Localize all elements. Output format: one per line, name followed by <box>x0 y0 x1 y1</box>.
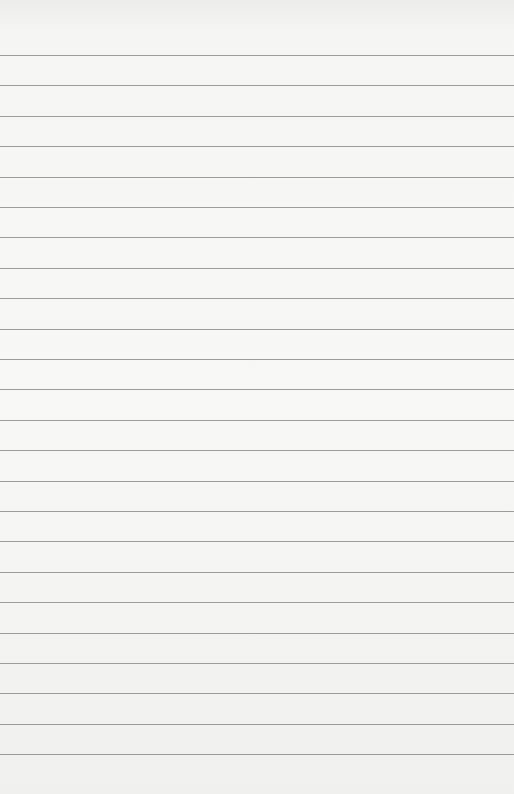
ruled-line <box>0 541 514 542</box>
ruled-line <box>0 389 514 390</box>
ruled-line <box>0 146 514 147</box>
ruled-line <box>0 450 514 451</box>
ruled-line <box>0 329 514 330</box>
ruled-line <box>0 481 514 482</box>
ruled-line <box>0 298 514 299</box>
ruled-line <box>0 55 514 56</box>
ruled-line <box>0 85 514 86</box>
ruled-line <box>0 572 514 573</box>
ruled-line <box>0 633 514 634</box>
ruled-line <box>0 207 514 208</box>
lined-paper-sheet <box>0 0 514 794</box>
ruled-line <box>0 693 514 694</box>
ruled-line <box>0 754 514 755</box>
ruled-line <box>0 177 514 178</box>
ruled-line <box>0 359 514 360</box>
ruled-line <box>0 724 514 725</box>
ruled-line <box>0 663 514 664</box>
ruled-line <box>0 237 514 238</box>
ruled-line <box>0 420 514 421</box>
ruled-line <box>0 268 514 269</box>
ruled-line <box>0 602 514 603</box>
ruled-line <box>0 511 514 512</box>
ruled-line <box>0 116 514 117</box>
